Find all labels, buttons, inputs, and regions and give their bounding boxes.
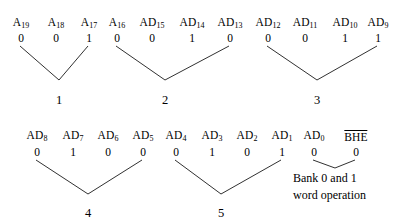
signal-name-text: AD11 [293,16,318,28]
signal-subscript: 10 [349,21,357,30]
bit-value: 1 [279,147,285,159]
signal-name-text: A17 [81,16,97,28]
signal-label-ad9: AD9 [368,17,389,30]
signal-name-text: AD1 [272,129,293,141]
bit-value: 0 [18,33,24,45]
signal-name-text: AD13 [218,16,243,28]
connector-group-4-3 [88,160,142,194]
connector-group-2-0 [116,46,165,80]
signal-name-text: A19 [13,16,29,28]
bit-value: 0 [140,147,146,159]
connector-group-3-3 [317,46,377,80]
signal-subscript: 8 [43,134,47,143]
bit-value: 0 [302,33,308,45]
bit-value: 0 [34,147,40,159]
signal-grouping-diagram: A190A180A1711A160AD150AD141AD1302AD120AD… [0,0,398,222]
connector-group-1-0 [20,46,59,80]
signal-label-ad13: AD13 [218,17,243,30]
signal-subscript: 18 [56,21,64,30]
signal-label-ad1: AD1 [272,130,293,143]
signal-name-text: AD6 [98,129,119,141]
bit-value: 0 [244,147,250,159]
bit-value: 0 [53,33,59,45]
signal-name-text: AD8 [27,129,48,141]
signal-label-bhe: BHE [344,130,367,143]
bit-value: 1 [342,33,348,45]
signal-label-ad8: AD8 [27,130,48,143]
bit-value: 0 [149,33,155,45]
bit-value: 1 [375,33,381,45]
signal-name-text: AD0 [304,129,325,141]
bit-value: 1 [209,147,215,159]
signal-label-ad0: AD0 [304,130,325,143]
signal-subscript: 16 [117,21,125,30]
signal-label-ad5: AD5 [133,130,154,143]
signal-subscript: 7 [79,134,83,143]
signal-subscript: 4 [182,134,186,143]
hex-digit-5: 5 [218,207,224,220]
signal-label-a19: A19 [13,17,29,30]
bit-value: 1 [70,147,76,159]
signal-subscript: 6 [114,134,118,143]
signal-label-ad14: AD14 [180,17,205,30]
signal-subscript: 1 [288,134,292,143]
signal-name-text: AD9 [368,16,389,28]
connector-group-4-0 [36,160,88,194]
signal-label-a16: A16 [109,17,125,30]
signal-name-text: AD5 [133,129,154,141]
bit-value: 1 [86,33,92,45]
bit-value: 0 [105,147,111,159]
signal-subscript: 14 [196,21,204,30]
signal-subscript: 0 [320,134,324,143]
signal-label-a18: A18 [48,17,64,30]
signal-name-text: AD15 [140,16,165,28]
signal-name-text: AD4 [166,129,187,141]
signal-label-ad3: AD3 [202,130,223,143]
signal-label-a17: A17 [81,17,97,30]
signal-label-ad11: AD11 [293,17,318,30]
signal-name-text: AD2 [237,129,258,141]
signal-subscript: 12 [272,21,280,30]
connector-group-5-0 [175,160,221,194]
connector-group-3-0 [267,46,317,80]
signal-name-text: AD14 [180,16,205,28]
signal-subscript: 5 [149,134,153,143]
signal-name-text: A16 [109,16,125,28]
signal-label-ad15: AD15 [140,17,165,30]
signal-label-ad7: AD7 [63,130,84,143]
signal-subscript: 15 [156,21,164,30]
connector-bank-1 [335,160,355,168]
signal-name-text: AD10 [333,16,358,28]
hex-digit-3: 3 [314,94,320,107]
signal-label-ad12: AD12 [256,17,281,30]
connector-group-2-3 [165,46,229,80]
signal-subscript: 17 [89,21,97,30]
bank-note-line-2: word operation [293,189,366,201]
bit-value: 0 [353,147,359,159]
signal-subscript: 13 [234,21,242,30]
connector-bank-0 [313,160,335,168]
bit-value: 0 [265,33,271,45]
signal-name-text: AD7 [63,129,84,141]
signal-label-ad4: AD4 [166,130,187,143]
signal-label-ad10: AD10 [333,17,358,30]
signal-name-text: AD12 [256,16,281,28]
signal-subscript: 2 [253,134,257,143]
bit-value: 0 [173,147,179,159]
signal-subscript: 11 [310,21,318,30]
signal-subscript: 19 [21,21,29,30]
signal-subscript: 3 [218,134,222,143]
hex-digit-1: 1 [56,94,62,107]
hex-digit-4: 4 [85,207,91,220]
signal-name-text: A18 [48,16,64,28]
signal-name-text: AD3 [202,129,223,141]
bit-value: 1 [189,33,195,45]
signal-name-text: BHE [344,130,367,143]
connector-group-5-3 [221,160,281,194]
connector-group-1-2 [59,46,88,80]
signal-subscript: 9 [384,21,388,30]
bit-value: 0 [114,33,120,45]
signal-label-ad6: AD6 [98,130,119,143]
hex-digit-2: 2 [162,94,168,107]
bit-value: 0 [311,147,317,159]
